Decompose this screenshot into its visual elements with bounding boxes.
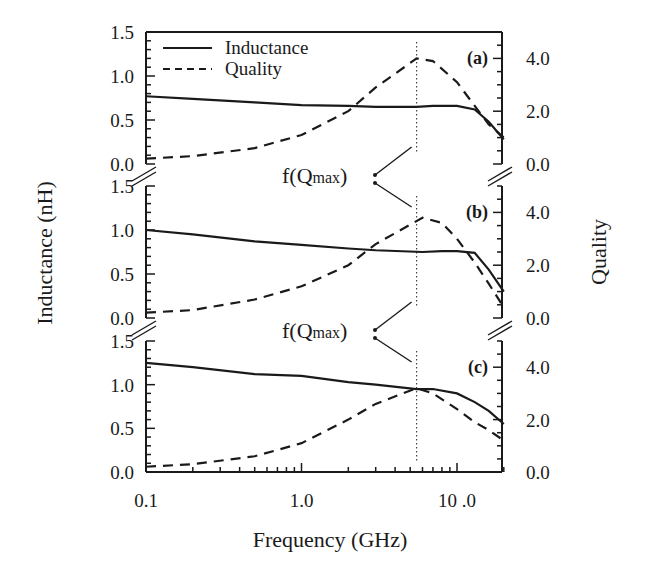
fqmax-annotation: f(Qmax)	[282, 147, 412, 207]
panel-b: 0.00.51.01.50.02.04.0(b)	[110, 176, 550, 340]
panel-tag: (a)	[467, 48, 488, 69]
left-tick-label: 0.5	[110, 110, 134, 131]
legend-label: Quality	[225, 58, 282, 79]
x-tick-label: 1.0	[290, 490, 314, 511]
x-tick-label: 0.1	[134, 490, 158, 511]
left-tick-label: 1.5	[110, 176, 134, 197]
quality-curve	[146, 218, 504, 313]
left-tick-label: 1.0	[110, 66, 134, 87]
svg-text:f(Qmax): f(Qmax)	[282, 318, 347, 343]
left-tick-label: 1.0	[110, 220, 134, 241]
left-tick-label: 0.0	[110, 154, 134, 175]
y-axis-label-right: Quality	[586, 219, 611, 285]
quality-curve	[146, 388, 504, 467]
inductance-quality-chart: 0.00.51.01.50.02.04.0(a)0.00.51.01.50.02…	[0, 0, 650, 582]
inductance-curve	[146, 230, 504, 292]
left-tick-label: 0.0	[110, 462, 134, 483]
x-tick-label: 10 .0	[438, 490, 476, 511]
right-tick-label: 4.0	[526, 357, 550, 378]
fqmax-annotation: f(Qmax)	[282, 302, 412, 362]
inductance-curve	[146, 363, 504, 424]
panel-c: 0.00.51.01.50.02.04.00.11.010 .0(c)	[110, 331, 550, 511]
left-tick-label: 1.5	[110, 331, 134, 352]
right-tick-label: 2.0	[526, 410, 550, 431]
right-tick-label: 4.0	[526, 202, 550, 223]
panel-a: 0.00.51.01.50.02.04.0(a)	[110, 22, 550, 186]
panel-tag: (c)	[468, 357, 488, 378]
right-tick-label: 0.0	[526, 154, 550, 175]
right-tick-label: 0.0	[526, 308, 550, 329]
right-tick-label: 2.0	[526, 101, 550, 122]
legend-label: Inductance	[225, 37, 308, 58]
panels: 0.00.51.01.50.02.04.0(a)0.00.51.01.50.02…	[110, 22, 550, 511]
legend: InductanceQuality	[163, 37, 308, 79]
left-tick-label: 0.0	[110, 308, 134, 329]
quality-curve	[146, 58, 504, 158]
left-tick-label: 1.0	[110, 375, 134, 396]
x-axis-label: Frequency (GHz)	[253, 527, 408, 552]
right-tick-label: 2.0	[526, 255, 550, 276]
left-tick-label: 1.5	[110, 22, 134, 43]
svg-text:f(Qmax): f(Qmax)	[282, 163, 347, 188]
right-tick-label: 4.0	[526, 48, 550, 69]
left-tick-label: 0.5	[110, 264, 134, 285]
left-tick-label: 0.5	[110, 418, 134, 439]
panel-tag: (b)	[466, 202, 488, 223]
right-tick-label: 0.0	[526, 462, 550, 483]
inductance-curve	[146, 96, 504, 139]
y-axis-label-left: Inductance (nH)	[32, 181, 57, 325]
